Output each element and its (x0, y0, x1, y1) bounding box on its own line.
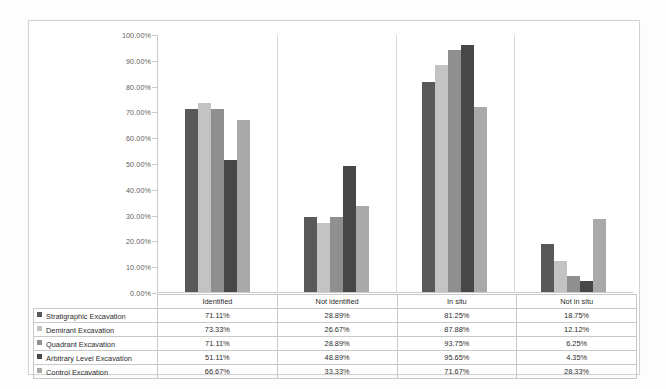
y-axis-tick-label: 10.00% (126, 263, 151, 272)
legend-label: Stratigraphic Excavation (46, 311, 126, 320)
legend-label: Arbitrary Level Excavation (46, 353, 132, 362)
y-axis-tick-label: 50.00% (126, 160, 151, 169)
table-cell-value: 4.35% (517, 351, 637, 365)
legend-swatch-icon (37, 312, 42, 317)
bar (356, 206, 369, 292)
bar (580, 281, 593, 292)
y-axis-tick (152, 87, 157, 88)
bar-group (158, 35, 277, 292)
plot-area (157, 35, 633, 293)
legend-swatch-icon (37, 340, 42, 345)
y-axis-tick (152, 267, 157, 268)
table-column-header: Identified (158, 295, 278, 309)
table-cell-value: 73.33% (158, 323, 278, 337)
y-axis-tick-label: 30.00% (126, 211, 151, 220)
chart-frame: 100.00%90.00%80.00%70.00%60.00%50.00%40.… (28, 20, 640, 375)
bar (211, 109, 224, 292)
y-axis-tick-label: 60.00% (126, 134, 151, 143)
table-cell-value: 87.88% (397, 323, 517, 337)
bar (554, 261, 567, 292)
bar (435, 65, 448, 292)
table-row: Quadrant Excavation71.11%28.89%93.75%6.2… (34, 337, 637, 351)
table-cell-value: 12.12% (517, 323, 637, 337)
bar-group (514, 35, 633, 292)
group-separator (396, 35, 397, 292)
bar-group (396, 35, 515, 292)
table-column-header: In situ (397, 295, 517, 309)
y-axis-tick-label: 40.00% (126, 185, 151, 194)
bar-group-inner (514, 35, 633, 292)
y-axis-tick-label: 90.00% (126, 56, 151, 65)
y-axis-tick-label: 20.00% (126, 237, 151, 246)
legend-swatch-icon (37, 368, 42, 373)
y-axis-tick (152, 112, 157, 113)
y-axis-tick-label: 70.00% (126, 108, 151, 117)
data-table: IdentifiedNot identifiedIn situNot in si… (33, 294, 637, 379)
group-separator (277, 35, 278, 292)
y-axis-tick (152, 164, 157, 165)
table-corner-cell (34, 295, 158, 309)
table-cell-value: 6.25% (517, 337, 637, 351)
bar (198, 103, 211, 292)
y-axis-tick (152, 138, 157, 139)
table-header-row: IdentifiedNot identifiedIn situNot in si… (34, 295, 637, 309)
table-cell-value: 93.75% (397, 337, 517, 351)
y-axis-tick (152, 216, 157, 217)
bar (461, 45, 474, 292)
table-cell-value: 71.67% (397, 365, 517, 379)
y-axis-tick (152, 61, 157, 62)
y-axis-tick (152, 190, 157, 191)
y-axis-tick-label: 80.00% (126, 82, 151, 91)
table-cell-value: 48.89% (277, 351, 397, 365)
legend-label: Demirant Excavation (46, 325, 114, 334)
chart-canvas: 100.00%90.00%80.00%70.00%60.00%50.00%40.… (0, 0, 666, 389)
bar (448, 50, 461, 292)
legend-entry: Control Excavation (34, 365, 158, 379)
table-row: Arbitrary Level Excavation51.11%48.89%95… (34, 351, 637, 365)
bar (237, 120, 250, 292)
bar-groups (158, 35, 633, 292)
table-cell-value: 71.11% (158, 337, 278, 351)
table-cell-value: 28.33% (517, 365, 637, 379)
legend-label: Control Excavation (46, 367, 108, 376)
x-axis-line (157, 292, 633, 293)
bar (304, 217, 317, 292)
bar (317, 223, 330, 292)
y-axis-tick-label: 100.00% (122, 31, 151, 40)
table-row: Control Excavation66.67%33.33%71.67%28.3… (34, 365, 637, 379)
legend-label: Quadrant Excavation (46, 339, 115, 348)
table-cell-value: 71.11% (158, 309, 278, 323)
bar (567, 276, 580, 292)
bar (541, 244, 554, 292)
y-axis-tick (152, 35, 157, 36)
bar (474, 107, 487, 292)
bar (330, 217, 343, 292)
table-cell-value: 33.33% (277, 365, 397, 379)
bar (422, 82, 435, 292)
table-column-header: Not identified (277, 295, 397, 309)
bar (224, 160, 237, 292)
y-axis-labels: 100.00%90.00%80.00%70.00%60.00%50.00%40.… (87, 35, 151, 293)
table-cell-value: 95.65% (397, 351, 517, 365)
legend-entry: Arbitrary Level Excavation (34, 351, 158, 365)
table-row: Stratigraphic Excavation71.11%28.89%81.2… (34, 309, 637, 323)
legend-entry: Quadrant Excavation (34, 337, 158, 351)
bar-group-inner (158, 35, 277, 292)
legend-swatch-icon (37, 326, 42, 331)
bar-group-inner (277, 35, 396, 292)
bar (593, 219, 606, 292)
legend-entry: Stratigraphic Excavation (34, 309, 158, 323)
table-cell-value: 18.75% (517, 309, 637, 323)
table-cell-value: 51.11% (158, 351, 278, 365)
bar (185, 109, 198, 292)
table-cell-value: 26.67% (277, 323, 397, 337)
table-cell-value: 81.25% (397, 309, 517, 323)
legend-swatch-icon (37, 354, 42, 359)
table-cell-value: 28.89% (277, 309, 397, 323)
table-row: Demirant Excavation73.33%26.67%87.88%12.… (34, 323, 637, 337)
legend-entry: Demirant Excavation (34, 323, 158, 337)
table-cell-value: 28.89% (277, 337, 397, 351)
table-column-header: Not in situ (517, 295, 637, 309)
table-cell-value: 66.67% (158, 365, 278, 379)
bar-group (277, 35, 396, 292)
